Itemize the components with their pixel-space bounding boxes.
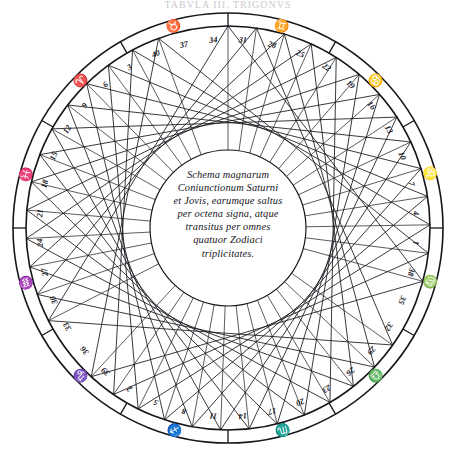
zodiac-glyph-aquarius: ♒ <box>17 272 36 291</box>
conjunction-number: 25 <box>294 48 306 60</box>
radial-spoke <box>270 57 336 162</box>
conjunction-number: 34 <box>208 35 218 45</box>
conjunction-number: 21 <box>35 209 45 219</box>
conjunction-chord <box>68 105 411 142</box>
conjunction-number: 8 <box>180 406 187 416</box>
zodiac-glyph-sagittarius: ♐ <box>164 421 183 440</box>
zodiac-glyph-leo: ♌ <box>421 164 440 183</box>
conjunction-chord <box>37 294 374 367</box>
caption-line: quatuor Zodiaci <box>148 233 308 246</box>
radial-spoke <box>37 254 154 295</box>
zodiac-glyph-gemini: ♊ <box>272 17 291 36</box>
caption-line: et Jovis, earumque saltus <box>148 194 308 207</box>
conjunction-number: 27 <box>39 266 50 278</box>
conjunction-number: 36 <box>78 344 91 358</box>
zodiac-glyph-scorpio: ♏ <box>272 421 291 440</box>
conjunction-number: 12 <box>61 124 73 136</box>
zodiac-glyph-capricorn: ♑ <box>69 365 91 387</box>
conjunction-number: 14 <box>238 411 247 421</box>
zodiac-division-tick <box>42 329 53 336</box>
conjunction-number: 40 <box>149 48 161 60</box>
radial-spoke <box>247 304 277 424</box>
radial-spoke <box>91 285 175 376</box>
radial-spoke <box>306 225 430 227</box>
caption-line: transitus per omnes <box>148 220 308 233</box>
caption-line: triplicitates. <box>148 247 308 260</box>
zodiac-division-tick <box>121 403 128 414</box>
caption-line: Coniunctionum Saturni <box>148 181 308 194</box>
radial-spoke <box>221 306 226 430</box>
conjunction-number: 16 <box>365 100 378 113</box>
conjunction-number: 11 <box>209 411 218 421</box>
conjunction-number: 28 <box>266 39 278 50</box>
conjunction-number: 15 <box>48 150 59 161</box>
radial-spoke <box>30 243 152 267</box>
zodiac-division-tick <box>121 42 128 53</box>
conjunction-number: 18 <box>39 178 50 189</box>
radial-spoke <box>305 238 428 254</box>
caption-line: per octena signa, atque <box>148 207 308 220</box>
conjunction-number: 19 <box>344 79 356 91</box>
zodiac-division-tick <box>403 329 414 336</box>
zodiac-glyph-virgo: ♍ <box>421 272 440 291</box>
zodiac-glyph-libra: ♎ <box>365 365 387 387</box>
conjunction-chord <box>330 57 336 402</box>
conjunction-number: 4 <box>411 210 420 216</box>
zodiac-division-tick <box>42 121 53 128</box>
radial-spoke <box>27 210 151 221</box>
conjunction-number: 3 <box>125 62 134 72</box>
conjunction-number: 29 <box>365 344 378 357</box>
conjunction-number: 20 <box>295 396 307 408</box>
zodiac-glyph-taurus: ♉ <box>164 17 183 36</box>
radial-spoke <box>285 282 375 367</box>
center-caption: Schema magnarumConiunctionum Saturniet J… <box>148 168 308 260</box>
conjunction-number: 9 <box>80 101 90 110</box>
conjunction-number: 38 <box>406 266 417 278</box>
caption-line: Schema magnarum <box>148 168 308 181</box>
zodiac-division-tick <box>403 121 414 128</box>
conjunction-number: 5 <box>152 397 159 407</box>
conjunction-number: 23 <box>321 382 334 395</box>
conjunction-number: 22 <box>320 61 333 74</box>
conjunction-number: 7 <box>406 181 416 188</box>
conjunction-number: 17 <box>266 406 277 417</box>
conjunction-number: 39 <box>100 365 113 378</box>
conjunction-number: 37 <box>178 39 190 50</box>
radial-spoke <box>31 182 152 210</box>
zodiac-glyph-cancer: ♋ <box>365 69 387 91</box>
conjunction-number: 32 <box>383 320 396 333</box>
conjunction-number: 10 <box>396 150 407 161</box>
radial-spoke <box>236 306 249 429</box>
conjunction-number: 1 <box>411 240 420 245</box>
radial-spoke <box>48 264 158 321</box>
zodiac-division-tick <box>329 42 336 53</box>
conjunction-chord <box>114 50 133 394</box>
zodiac-division-tick <box>329 403 336 414</box>
zodiac-glyph-pisces: ♓ <box>17 164 36 183</box>
radial-spoke <box>192 305 214 427</box>
conjunction-number: 24 <box>35 238 45 248</box>
conjunction-number: 35 <box>396 294 408 306</box>
conjunction-number: 31 <box>237 35 247 45</box>
conjunction-chord <box>40 94 380 154</box>
